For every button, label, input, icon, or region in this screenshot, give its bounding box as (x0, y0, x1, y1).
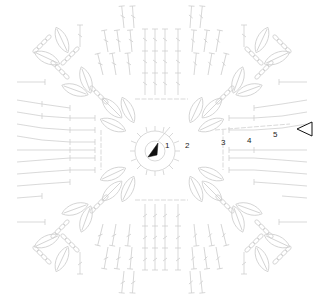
quadrant-top-left (32, 25, 139, 136)
stitch-chart (0, 0, 324, 299)
quadrant-top-right (185, 25, 292, 136)
start-arrow-icon (148, 143, 158, 157)
round-label-3: 3 (221, 139, 225, 147)
round-label-2: 2 (185, 142, 189, 150)
round-label-4: 4 (247, 137, 251, 145)
crochet-diagram: 1 2 3 4 5 (0, 0, 324, 299)
bottom-stitch-columns (77, 204, 247, 293)
top-stitch-columns (77, 6, 247, 95)
quadrant-bottom-left (32, 163, 139, 274)
inner-chain-border (101, 99, 290, 200)
round-label-1: 1 (165, 142, 169, 150)
quadrant-bottom-right (185, 163, 292, 274)
round-label-5: 5 (273, 131, 277, 139)
